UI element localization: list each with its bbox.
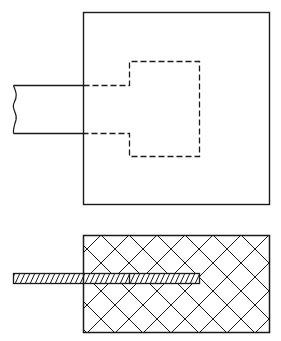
plate <box>14 274 200 284</box>
break-line <box>13 86 16 134</box>
technical-drawing <box>0 0 281 341</box>
section-view <box>14 235 270 333</box>
outer-square <box>84 13 270 205</box>
diagram-container <box>0 0 281 341</box>
embedded-outline-dashed <box>84 62 200 157</box>
top-view <box>13 13 269 205</box>
